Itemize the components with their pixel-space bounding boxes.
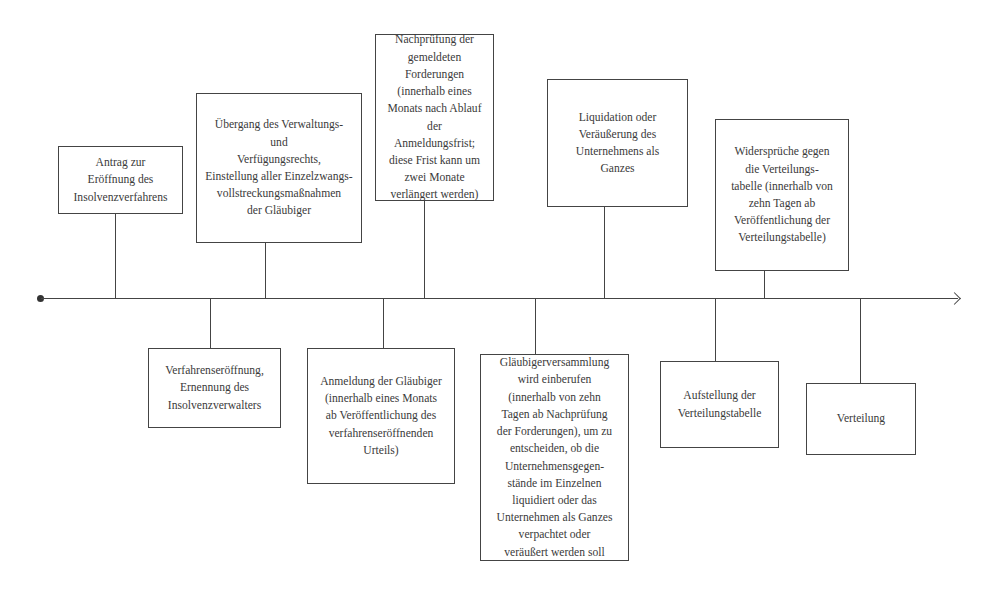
event-text: Verfahrenseröffnung, Ernennung des Insol…: [165, 362, 264, 414]
event-text: Aufstellung der Verteilungstabelle: [678, 387, 762, 421]
event-text: Antrag zur Eröffnung des Insolvenzverfah…: [74, 154, 168, 206]
event-text: Verteilung: [837, 410, 885, 427]
connector-anmeldung: [383, 299, 384, 348]
event-text: Anmeldung der Gläubiger (innerhalb eines…: [320, 373, 442, 459]
event-box-widersprueche: Widersprüche gegen die Verteilungs- tabe…: [715, 119, 849, 271]
event-text: Gläubigerversammlung wird einberufen (in…: [497, 354, 613, 560]
event-text: Liquidation oder Veräußerung des Unterne…: [576, 109, 659, 178]
event-box-liquidation: Liquidation oder Veräußerung des Unterne…: [547, 79, 688, 207]
connector-verteilung: [860, 299, 861, 383]
connector-uebergang: [265, 242, 266, 299]
timeline-arrowhead-icon: [948, 292, 961, 305]
event-box-verteilung: Verteilung: [806, 383, 916, 455]
event-box-glaeubigerversammlung: Gläubigerversammlung wird einberufen (in…: [480, 354, 629, 561]
connector-antrag: [115, 213, 116, 299]
connector-verfahrenseroeffnung: [210, 299, 211, 348]
connector-widersprueche: [764, 270, 765, 299]
event-box-nachpruefung: Nachprüfung der gemeldeten Forderungen (…: [375, 34, 494, 201]
event-box-antrag: Antrag zur Eröffnung des Insolvenzverfah…: [58, 146, 183, 214]
connector-aufstellung: [715, 299, 716, 361]
event-text: Nachprüfung der gemeldeten Forderungen (…: [387, 31, 481, 203]
timeline-axis: [41, 298, 958, 299]
event-box-anmeldung: Anmeldung der Gläubiger (innerhalb eines…: [307, 348, 455, 484]
connector-glaeubigerversammlung: [535, 299, 536, 354]
connector-nachpruefung: [424, 200, 425, 299]
event-text: Widersprüche gegen die Verteilungs- tabe…: [731, 143, 833, 246]
event-box-uebergang: Übergang des Verwaltungs- und Verfügungs…: [196, 93, 362, 243]
connector-liquidation: [604, 206, 605, 299]
event-box-aufstellung: Aufstellung der Verteilungstabelle: [660, 361, 779, 448]
event-text: Übergang des Verwaltungs- und Verfügungs…: [205, 116, 352, 219]
event-box-verfahrenseroeffnung: Verfahrenseröffnung, Ernennung des Insol…: [148, 348, 281, 428]
